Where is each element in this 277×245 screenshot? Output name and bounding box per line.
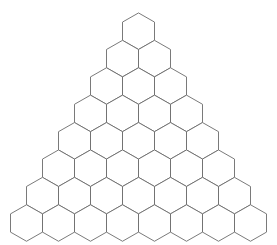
hexagon-triangle-figure (0, 0, 277, 245)
